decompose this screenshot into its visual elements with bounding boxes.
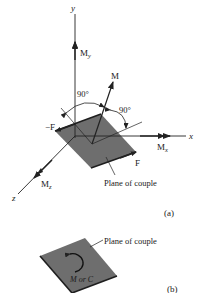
plane-of-couple-plate-b: [40, 238, 117, 293]
mx-label: Mx: [157, 142, 168, 153]
x-axis-label: x: [188, 131, 193, 141]
neg-force-label: −F: [45, 122, 55, 132]
force-label: F: [135, 158, 140, 168]
z-axis-label: z: [11, 193, 16, 203]
caption-a: (a): [164, 208, 174, 218]
mz-label: Mz: [41, 179, 52, 190]
figure-b: Plane of couple M or C (b): [40, 236, 178, 293]
plane-of-couple-plate: [55, 114, 136, 168]
moment-label-b: M or C: [69, 275, 94, 284]
caption-b: (b): [167, 284, 178, 293]
diagram-canvas: y x z My Mx Mz M −F F 90° 90° Plane of c…: [0, 0, 199, 293]
angle-label-left: 90°: [77, 89, 89, 99]
mx-arrow-icon: [158, 133, 165, 139]
my-label: My: [80, 48, 91, 59]
m-label: M: [111, 71, 119, 81]
angle-label-right: 90°: [119, 105, 131, 115]
plane-of-couple-label-a: Plane of couple: [104, 178, 157, 188]
my-arrow-icon: [72, 41, 78, 48]
angle-arc-left: [66, 103, 104, 113]
figure-a: y x z My Mx Mz M −F F 90° 90° Plane of c…: [11, 3, 193, 218]
y-axis-label: y: [70, 3, 75, 13]
plane-of-couple-label-b: Plane of couple: [104, 236, 157, 246]
